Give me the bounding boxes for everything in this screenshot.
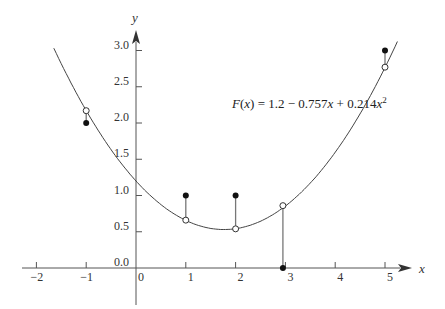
data-point-filled [83,120,89,126]
x-tick-label: 4 [337,270,343,284]
x-axis-label: x [418,261,425,276]
data-point-filled [183,193,189,199]
x-tick-label: 2 [238,270,244,284]
y-tick-label: 0.0 [114,255,129,269]
x-tick-label: 5 [387,270,393,284]
x-tick-label: −2 [30,270,43,284]
chart-figure: xy−2−10123450.00.51.01.52.02.53.0F(x) = … [0,0,445,309]
equation-annotation: F(x) = 1.2 − 0.757x + 0.214x2 [231,95,387,111]
y-axis-arrow-icon [132,30,140,44]
plot-canvas: xy−2−10123450.00.51.01.52.02.53.0F(x) = … [0,0,445,309]
fit-curve [54,42,398,230]
y-tick-label: 3.0 [114,38,129,52]
data-point-filled [280,265,286,271]
x-axis-arrow-icon [398,264,412,272]
y-tick-label: 0.5 [114,219,129,233]
fit-point-open [280,203,286,209]
y-tick-label: 2.0 [114,110,129,124]
x-tick-label: −1 [80,270,93,284]
fit-point-open [83,108,89,114]
fit-point-open [233,226,239,232]
y-tick-label: 2.5 [114,74,129,88]
y-tick-label: 1.5 [114,146,129,160]
y-axis-label: y [130,10,138,25]
x-tick-label: 0 [138,270,144,284]
x-tick-label: 1 [188,270,194,284]
data-point-filled [233,193,239,199]
data-point-filled [382,48,388,54]
fit-point-open [382,64,388,70]
y-tick-label: 1.0 [114,183,129,197]
fit-point-open [183,217,189,223]
x-tick-label: 3 [287,270,293,284]
